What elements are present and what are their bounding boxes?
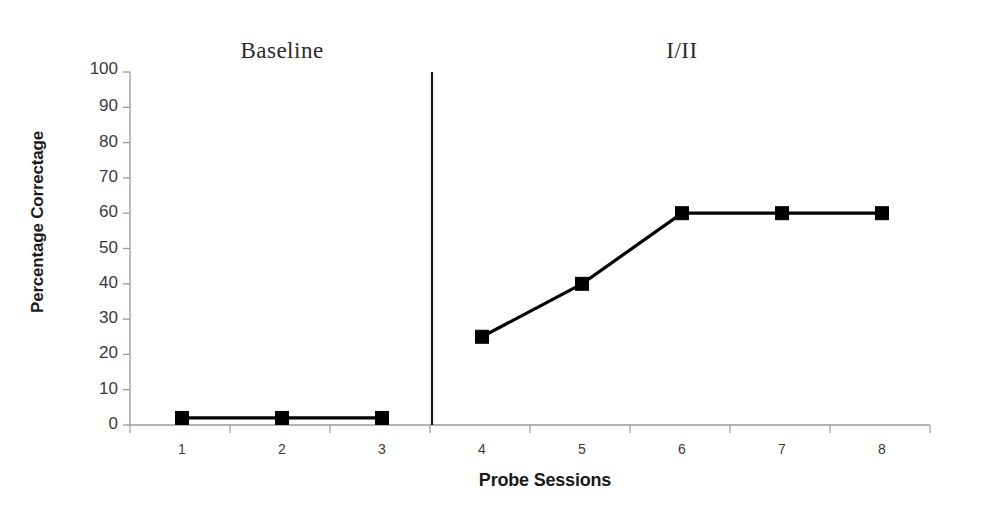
data-series-markers xyxy=(176,207,889,425)
plot-area xyxy=(0,0,1005,522)
data-series-lines xyxy=(182,213,882,418)
y-axis-spine xyxy=(123,72,130,425)
x-axis-spine xyxy=(130,425,930,433)
chart-canvas: Baseline I/II Percentage Correctage Prob… xyxy=(0,0,1005,522)
